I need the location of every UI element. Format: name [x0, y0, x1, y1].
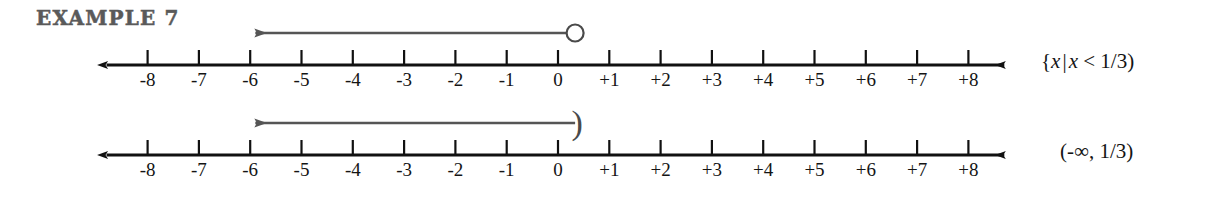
tick-label: -2: [447, 159, 463, 181]
less-than-sign: <: [1083, 49, 1095, 73]
paren-open: (: [1060, 139, 1067, 163]
variable-x-2: x: [1069, 49, 1078, 73]
tick-label: -2: [447, 69, 463, 91]
tick-label: +5: [804, 159, 824, 181]
bound-value-1: 1/3: [1100, 49, 1127, 73]
tick-label: -1: [499, 69, 515, 91]
tick-label: +7: [907, 159, 927, 181]
comma: ,: [1089, 139, 1094, 163]
tick-label: +4: [753, 69, 773, 91]
tick-label: +6: [856, 159, 876, 181]
number-line-1: [107, 25, 1005, 66]
tick-label: +8: [958, 159, 978, 181]
tick-label: -5: [294, 159, 310, 181]
closing-paren-1: ): [1127, 49, 1134, 73]
right-parenthesis-endpoint: ): [571, 106, 582, 140]
tick-label: -8: [140, 159, 156, 181]
brace-open: {: [1041, 49, 1051, 73]
variable-x-1: x: [1051, 49, 1060, 73]
negative-infinity: -∞: [1067, 139, 1089, 163]
tick-label: -1: [499, 159, 515, 181]
tick-label: +6: [856, 69, 876, 91]
tick-label: -7: [191, 69, 207, 91]
tick-label: +7: [907, 69, 927, 91]
tick-label: +2: [650, 69, 670, 91]
tick-label: +3: [702, 69, 722, 91]
number-line-2: [107, 123, 1005, 155]
tick-label: -3: [396, 69, 412, 91]
tick-label: +5: [804, 69, 824, 91]
tick-label: -8: [140, 69, 156, 91]
paren-close: ): [1126, 139, 1133, 163]
tick-label: +1: [599, 159, 619, 181]
tick-label: 0: [553, 159, 563, 181]
tick-label: -3: [396, 159, 412, 181]
tick-label: -7: [191, 159, 207, 181]
example-figure: EXAMPLE 7 -8-7-6-5-4-3-2-10+1+2+3+4+5+6+…: [0, 0, 1219, 198]
open-circle-endpoint: [567, 25, 584, 42]
bound-value-2: 1/3: [1099, 139, 1126, 163]
tick-label: +3: [702, 159, 722, 181]
tick-label: -6: [242, 69, 258, 91]
tick-label: -4: [345, 159, 361, 181]
tick-label: +8: [958, 69, 978, 91]
tick-label: +4: [753, 159, 773, 181]
tick-label: -5: [294, 69, 310, 91]
set-builder-notation: {x|x < 1/3): [1041, 49, 1134, 74]
interval-notation: (-∞, 1/3): [1060, 139, 1133, 164]
tick-label: -4: [345, 69, 361, 91]
tick-label: +2: [650, 159, 670, 181]
tick-label: +1: [599, 69, 619, 91]
tick-label: 0: [553, 69, 563, 91]
tick-label: -6: [242, 159, 258, 181]
such-that-bar: |: [1060, 49, 1068, 74]
